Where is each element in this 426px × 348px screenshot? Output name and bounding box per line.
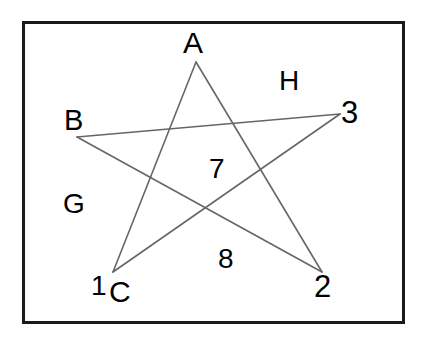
- label-8: 8: [218, 245, 234, 273]
- label-2: 2: [314, 271, 331, 302]
- label-C: C: [109, 277, 131, 307]
- label-7: 7: [209, 155, 225, 183]
- label-H: H: [279, 67, 299, 95]
- label-1: 1: [91, 272, 107, 300]
- label-G: G: [63, 190, 85, 218]
- label-B: B: [64, 106, 83, 135]
- figure-canvas: A B 3 1 C 2 7 8 G H: [0, 0, 426, 348]
- label-A: A: [183, 28, 203, 58]
- label-3: 3: [341, 97, 358, 128]
